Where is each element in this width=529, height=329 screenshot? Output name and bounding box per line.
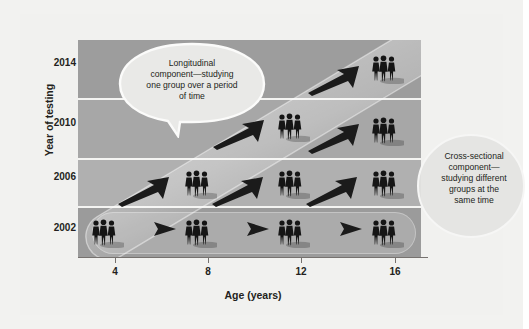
x-tick-label-8: 8	[188, 266, 228, 277]
row-separator-2	[78, 158, 421, 160]
people-group-2002-age4	[90, 218, 124, 248]
arrow-2002-4-to-8	[118, 218, 178, 240]
people-group-2002-age12	[276, 218, 310, 248]
y-tick-label-2006: 2006	[32, 171, 76, 182]
people-group-2006-age12	[276, 169, 310, 199]
longitudinal-line-4: of time	[130, 91, 254, 102]
people-group-2006-age8	[183, 169, 217, 199]
arrow-2006-8-to-2006-12	[210, 175, 264, 207]
diagram-canvas: Year of testing 2014 2010 2006 2002	[20, 14, 503, 315]
longitudinal-line-1: Longitudinal	[130, 58, 254, 69]
cross-sectional-callout-text: Cross-sectional component— studying diff…	[420, 151, 528, 206]
people-group-2010-age16	[370, 116, 404, 146]
arrow-2002-12-to-16	[304, 218, 364, 240]
arrow-2002-8-to-12	[211, 218, 271, 240]
x-tick-4	[115, 257, 116, 263]
x-tick-16	[395, 257, 396, 263]
arrow-2010-12-to-2014-16	[306, 64, 360, 96]
x-axis-line	[78, 257, 428, 258]
x-axis-title: Age (years)	[78, 289, 428, 301]
y-tick-label-2010: 2010	[32, 117, 76, 128]
arrow-2010-12-to-2010-16	[306, 122, 360, 154]
arrow-2002-4-to-2006-8	[116, 175, 170, 207]
x-tick-label-16: 16	[375, 266, 415, 277]
cross-sectional-line-5: same time	[420, 195, 528, 206]
cross-sectional-line-3: studying different	[420, 173, 528, 184]
cross-sectional-line-2: component—	[420, 162, 528, 173]
longitudinal-callout-text: Longitudinal component—studying one grou…	[130, 58, 254, 102]
people-group-2010-age12	[276, 112, 310, 142]
people-group-2002-age16	[370, 218, 404, 248]
x-tick-label-12: 12	[281, 266, 321, 277]
y-tick-label-2014: 2014	[32, 57, 76, 68]
cross-sectional-line-1: Cross-sectional	[420, 151, 528, 162]
people-group-2002-age8	[183, 218, 217, 248]
people-group-2006-age16	[370, 169, 404, 199]
arrow-2006-12-to-2006-16	[304, 175, 358, 207]
cross-sectional-line-4: groups at the	[420, 184, 528, 195]
y-tick-label-2002: 2002	[32, 222, 76, 233]
longitudinal-line-2: component—studying	[130, 69, 254, 80]
x-tick-12	[301, 257, 302, 263]
longitudinal-line-3: one group over a period	[130, 80, 254, 91]
people-group-2014-age16	[370, 54, 404, 84]
x-tick-label-4: 4	[95, 266, 135, 277]
x-tick-8	[208, 257, 209, 263]
